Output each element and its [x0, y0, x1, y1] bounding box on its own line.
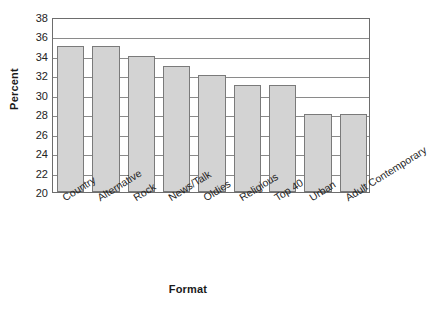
y-tick-label: 20: [22, 187, 48, 199]
y-tick-label: 22: [22, 168, 48, 180]
plot-area: [52, 18, 370, 193]
bar: [163, 66, 191, 192]
y-axis-title: Percent: [8, 49, 20, 129]
x-axis-title: Format: [0, 283, 376, 295]
y-tick-label: 26: [22, 129, 48, 141]
y-tick-label: 28: [22, 109, 48, 121]
bar: [234, 85, 262, 192]
y-tick-label: 24: [22, 148, 48, 160]
bar: [57, 46, 85, 192]
bar: [92, 46, 120, 192]
y-tick-label: 32: [22, 70, 48, 82]
y-tick-label: 34: [22, 51, 48, 63]
y-tick-label: 38: [22, 12, 48, 24]
x-axis-tick-labels: CountryAlternativeRockNews/TalkOldiesRel…: [52, 193, 376, 278]
bars-series: [53, 19, 369, 192]
y-tick-label: 30: [22, 90, 48, 102]
y-tick-label: 36: [22, 31, 48, 43]
y-axis-tick-labels: 20222426283032343638: [22, 11, 48, 197]
